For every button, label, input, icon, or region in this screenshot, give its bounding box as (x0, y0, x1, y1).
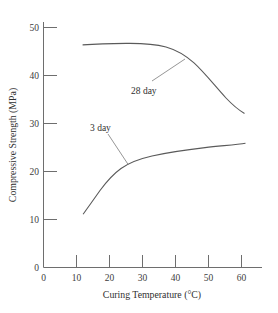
annotation-label-28-day: 28 day (131, 86, 157, 96)
y-axis-tick-labels: 50 40 30 20 10 0 (30, 23, 40, 273)
x-ticklabel-60: 60 (237, 273, 247, 283)
curve-28-day (83, 43, 245, 113)
x-ticklabel-50: 50 (204, 273, 214, 283)
x-ticklabel-0: 0 (41, 273, 46, 283)
x-ticklabel-40: 40 (171, 273, 181, 283)
y-ticklabel-40: 40 (30, 71, 40, 81)
y-ticklabel-0: 0 (34, 263, 39, 273)
x-ticklabel-30: 30 (138, 273, 148, 283)
curve-3-day (83, 143, 245, 214)
x-axis-tick-labels: 0 10 20 30 40 50 60 (41, 273, 246, 283)
leader-line-28-day (152, 59, 185, 81)
compressive-strength-vs-curing-temperature-chart: 50 40 30 20 10 0 0 10 20 30 40 50 60 Cur… (0, 0, 278, 313)
chart-figure: 50 40 30 20 10 0 0 10 20 30 40 50 60 Cur… (0, 0, 278, 313)
x-ticklabel-10: 10 (72, 273, 82, 283)
leader-line-3-day (108, 134, 129, 165)
y-ticklabel-50: 50 (30, 23, 40, 33)
x-axis-title: Curing Temperature (°C) (103, 289, 201, 301)
y-axis-ticks (44, 28, 57, 220)
x-axis-ticks (77, 255, 242, 267)
y-ticklabel-20: 20 (30, 167, 40, 177)
x-ticklabel-20: 20 (105, 273, 115, 283)
annotation-leaders (108, 59, 185, 165)
y-ticklabel-30: 30 (30, 119, 40, 129)
annotation-label-3-day: 3 day (90, 123, 111, 133)
y-axis-title: Compressive Strength (MPa) (7, 88, 19, 202)
y-ticklabel-10: 10 (30, 215, 40, 225)
